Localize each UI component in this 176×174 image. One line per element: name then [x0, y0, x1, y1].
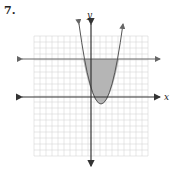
y-axis-label: y [86, 10, 93, 20]
x-axis-label: x [164, 92, 169, 102]
graph: x y [0, 0, 176, 174]
